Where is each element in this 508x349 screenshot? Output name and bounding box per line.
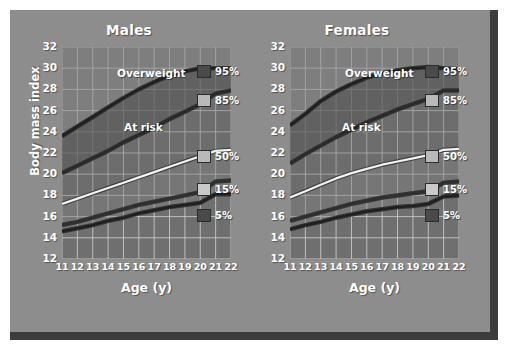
panel-males: Males Body mass index Age (y) 1214161820… <box>14 10 244 332</box>
legend-item-5-males: 5% <box>197 209 232 222</box>
panel-title-females: Females <box>242 22 472 38</box>
legend-label-15-females: 15% <box>443 184 467 195</box>
legend-label-85-males: 85% <box>215 95 239 106</box>
legend-swatch-5-males <box>197 209 211 222</box>
legend-swatch-15-males <box>197 183 211 196</box>
y-tick-24-females: 24 <box>255 125 285 137</box>
legend-label-5-females: 5% <box>443 210 460 221</box>
y-tick-30-males: 30 <box>27 61 57 73</box>
y-tick-20-females: 20 <box>255 167 285 179</box>
legend-swatch-15-females <box>425 183 439 196</box>
legend-item-50-females: 50% <box>425 150 467 163</box>
y-tick-28-females: 28 <box>255 82 285 94</box>
y-tick-32-males: 32 <box>27 40 57 52</box>
legend-label-50-females: 50% <box>443 151 467 162</box>
y-tick-28-males: 28 <box>27 82 57 94</box>
legend-swatch-95-males <box>197 65 211 78</box>
y-tick-16-females: 16 <box>255 210 285 222</box>
y-tick-14-females: 14 <box>255 231 285 243</box>
y-tick-20-males: 20 <box>27 167 57 179</box>
x-tick-22-females: 22 <box>450 261 468 272</box>
legend-item-15-females: 15% <box>425 183 467 196</box>
annotation-overweight-males: Overweight <box>117 67 186 79</box>
legend-swatch-50-females <box>425 150 439 163</box>
annotation-overweight-females: Overweight <box>345 67 414 79</box>
legend-label-5-males: 5% <box>215 210 232 221</box>
x-axis-label-males: Age (y) <box>62 280 231 295</box>
y-tick-22-males: 22 <box>27 146 57 158</box>
x-axis-label-females: Age (y) <box>290 280 459 295</box>
legend-item-15-males: 15% <box>197 183 239 196</box>
annotation-at-risk-females: At risk <box>342 121 381 133</box>
x-tick-22-males: 22 <box>222 261 240 272</box>
legend-item-95-males: 95% <box>197 65 239 78</box>
y-tick-22-females: 22 <box>255 146 285 158</box>
legend-swatch-95-females <box>425 65 439 78</box>
legend-swatch-85-males <box>197 94 211 107</box>
legend-item-50-males: 50% <box>197 150 239 163</box>
legend-swatch-50-males <box>197 150 211 163</box>
y-tick-26-males: 26 <box>27 104 57 116</box>
legend-label-95-females: 95% <box>443 66 467 77</box>
panel-title-males: Males <box>14 22 244 38</box>
legend-swatch-5-females <box>425 209 439 222</box>
panel-females: Females Age (y) 1214161820222426283032 1… <box>242 10 472 332</box>
legend-item-85-females: 85% <box>425 94 467 107</box>
y-tick-24-males: 24 <box>27 125 57 137</box>
y-tick-18-females: 18 <box>255 188 285 200</box>
y-tick-14-males: 14 <box>27 231 57 243</box>
legend-item-5-females: 5% <box>425 209 460 222</box>
annotation-at-risk-males: At risk <box>124 121 163 133</box>
y-tick-30-females: 30 <box>255 61 285 73</box>
y-tick-18-males: 18 <box>27 188 57 200</box>
legend-swatch-85-females <box>425 94 439 107</box>
legend-item-95-females: 95% <box>425 65 467 78</box>
y-tick-26-females: 26 <box>255 104 285 116</box>
legend-label-95-males: 95% <box>215 66 239 77</box>
legend-item-85-males: 85% <box>197 94 239 107</box>
legend-label-15-males: 15% <box>215 184 239 195</box>
y-tick-16-males: 16 <box>27 210 57 222</box>
legend-label-85-females: 85% <box>443 95 467 106</box>
figure-container: Males Body mass index Age (y) 1214161820… <box>10 10 498 340</box>
y-tick-32-females: 32 <box>255 40 285 52</box>
legend-label-50-males: 50% <box>215 151 239 162</box>
